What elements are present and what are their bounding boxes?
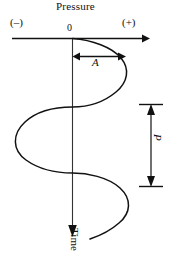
figure-title: Pressure (56, 1, 95, 12)
time-axis-label: Time (69, 228, 80, 251)
negative-pressure-label: (–) (10, 17, 23, 28)
waveform-canvas (0, 0, 185, 259)
period-label: P (152, 134, 163, 141)
pressure-axis (12, 35, 150, 43)
time-axis (68, 39, 77, 238)
amplitude-arrow-head-left (73, 53, 81, 61)
amplitude-label: A (92, 57, 99, 68)
period-arrow-head-bottom (147, 176, 155, 187)
period-arrow (139, 104, 163, 187)
positive-pressure-label: (+) (122, 17, 136, 28)
pressure-axis-arrowhead (142, 35, 150, 43)
sine-waveform-curve (15, 39, 128, 240)
period-arrow-head-top (147, 104, 155, 115)
waveform-figure: Pressure (–) (+) 0 A P Time (0, 0, 185, 259)
amplitude-arrow (73, 53, 127, 61)
zero-pressure-label: 0 (67, 23, 72, 33)
